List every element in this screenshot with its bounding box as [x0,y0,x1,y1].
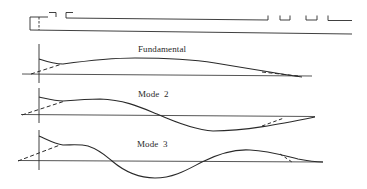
mode3-curve [39,136,323,178]
mode2-curve [39,97,315,131]
beam-segment-c [328,16,352,21]
mode2-dashed-asymptote [22,101,65,115]
mode2-baseline [21,115,315,117]
beam-segment-a [280,16,290,21]
mode3-dashed-tip [280,154,292,162]
fundamental-label: Fundamental [138,44,186,54]
mode-3-label: Mode 3 [137,139,168,149]
mode-3 [18,130,323,178]
beam-segment-b [306,16,317,21]
mode-2-label: Mode 2 [138,89,169,99]
mode3-baseline [18,161,323,163]
fundamental-dashed-asymptote [31,64,62,74]
mode-shape-diagram: Fundamental Mode 2 Mode 3 [0,0,367,189]
fundamental-baseline [22,74,312,76]
beam-lower-edge [30,30,352,34]
beam-upper-edge [66,13,268,21]
beam-step-1 [49,13,56,18]
beam-schematic [30,13,352,35]
